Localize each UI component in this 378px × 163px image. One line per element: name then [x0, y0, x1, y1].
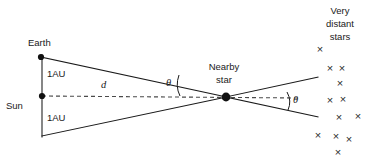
distant-stars-group: ×××××××××××× — [315, 43, 361, 158]
sight-line-opposition-to-star — [42, 97, 226, 136]
distant-star-mark: × — [340, 93, 346, 105]
distant-star-mark: × — [327, 94, 333, 106]
diagram-canvas: Earth Sun 1AU 1AU d θ θ Nearby star Very… — [0, 0, 378, 163]
distant-star-mark: × — [339, 62, 345, 74]
dashed-axis-sun-to-star — [42, 96, 300, 98]
label-distant-stars-line2: distant — [326, 18, 354, 29]
nearby-star-node-dot — [222, 93, 231, 102]
label-au-top: 1AU — [47, 68, 66, 79]
label-nearby-star-line2: star — [216, 74, 232, 85]
distant-star-mark: × — [346, 133, 352, 145]
distant-star-mark: × — [336, 111, 342, 123]
distant-star-mark: × — [327, 62, 333, 74]
distant-star-mark: × — [337, 77, 343, 89]
label-nearby-star-line1: Nearby — [209, 61, 240, 72]
label-au-bottom: 1AU — [47, 112, 66, 123]
distant-star-mark: × — [317, 43, 323, 55]
distant-star-mark: × — [333, 130, 339, 142]
theta-left-bracket — [177, 75, 180, 96]
theta-right-bracket — [287, 92, 290, 110]
sight-line-star-to-distant-upper — [226, 77, 318, 97]
label-theta-left: θ — [166, 77, 171, 88]
label-theta-right: θ — [293, 94, 298, 105]
distant-star-mark: × — [355, 110, 361, 122]
label-distant-stars-line3: stars — [330, 31, 351, 42]
parallax-diagram: Earth Sun 1AU 1AU d θ θ Nearby star Very… — [0, 0, 378, 163]
sight-line-earth-to-star — [41, 57, 226, 97]
earth-node-dot — [38, 54, 44, 60]
distant-star-mark: × — [315, 129, 321, 141]
label-earth: Earth — [28, 37, 51, 48]
label-distant-stars-line1: Very — [330, 5, 349, 16]
label-distance-d: d — [101, 79, 107, 90]
sun-node-dot — [39, 93, 45, 99]
label-sun: Sun — [6, 100, 23, 111]
sight-line-star-to-distant-lower — [226, 97, 318, 117]
distant-star-mark: × — [335, 146, 341, 158]
